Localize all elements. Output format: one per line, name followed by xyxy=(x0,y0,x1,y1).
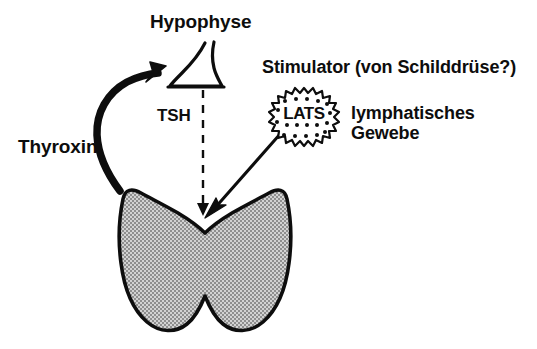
label-hypophyse: Hypophyse xyxy=(150,11,252,32)
label-lymphatic-tissue-line2: Gewebe xyxy=(351,123,419,143)
label-tsh: TSH xyxy=(157,106,191,125)
pituitary-gland xyxy=(168,42,224,87)
thyroxin-arrow xyxy=(97,62,166,191)
label-lymphatic-tissue-line1: lymphatisches xyxy=(351,103,475,123)
label-stimulator: Stimulator (von Schilddrüse?) xyxy=(262,57,516,77)
lats-cell-label: LATS xyxy=(283,104,325,123)
thyroid-regulation-diagram: LATS Hypophyse Stimulator (von Schilddrü… xyxy=(0,0,537,349)
label-lymphatic-tissue: lymphatischesGewebe xyxy=(351,103,475,143)
thyroxin-arrow-shaft xyxy=(97,73,158,191)
label-thyroxin: Thyroxin xyxy=(18,136,97,157)
pituitary-outline xyxy=(170,42,222,86)
diagram-canvas: LATS xyxy=(0,0,537,349)
tsh-dashed-arrow xyxy=(197,90,209,216)
lats-cell: LATS xyxy=(269,88,339,146)
